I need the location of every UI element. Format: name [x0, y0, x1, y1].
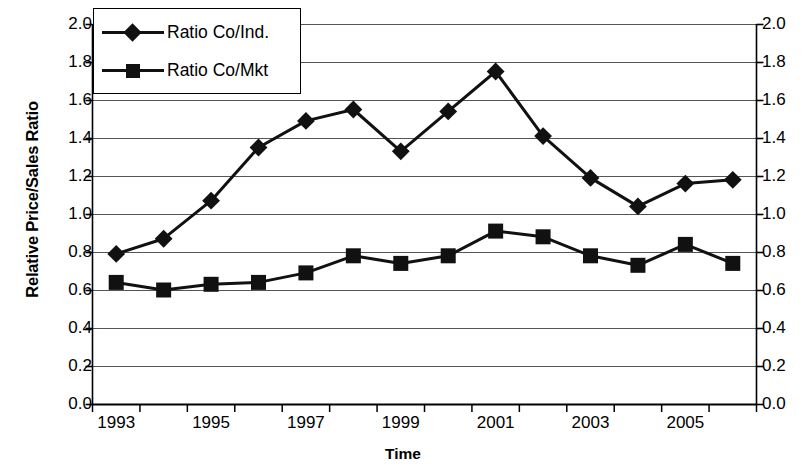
data-point-marker — [346, 248, 361, 263]
data-point-marker — [107, 245, 125, 263]
x-axis-tick-label: 1993 — [97, 414, 135, 431]
y-axis-tick-label: 2.0 — [762, 15, 786, 32]
data-point-marker — [109, 275, 124, 290]
y-axis-tick-label: 2.0 — [68, 15, 92, 32]
data-point-marker — [583, 248, 598, 263]
data-series-layer — [107, 63, 741, 298]
data-point-marker — [676, 175, 694, 193]
legend-label: Ratio Co/Ind. — [164, 23, 269, 41]
price-sales-ratio-line-chart: Relative Price/Sales Ratio Time 0.00.20.… — [0, 0, 806, 466]
diamond-marker-icon — [102, 23, 164, 41]
square-marker-icon — [102, 61, 164, 79]
y-axis-tick-label: 0.4 — [762, 319, 786, 336]
data-point-marker — [678, 237, 693, 252]
data-point-marker — [441, 248, 456, 263]
data-point-marker — [156, 283, 171, 298]
y-axis-tick-label: 0.8 — [68, 243, 92, 260]
y-axis-tick-label: 1.6 — [762, 91, 786, 108]
legend-item-ratio-co-ind: Ratio Co/Ind. — [102, 14, 300, 50]
data-point-marker — [297, 112, 315, 130]
x-axis-tick-label: 2001 — [477, 414, 515, 431]
y-axis-tick-label: 1.6 — [68, 91, 92, 108]
legend-item-ratio-co-mkt: Ratio Co/Mkt — [102, 52, 300, 88]
data-point-marker — [251, 275, 266, 290]
data-point-marker — [725, 256, 740, 271]
data-point-marker — [630, 258, 645, 273]
y-axis-tick-label: 0.0 — [762, 395, 786, 412]
y-axis-tick-label: 1.8 — [68, 53, 92, 70]
y-axis-tick-label: 1.0 — [762, 205, 786, 222]
y-axis-tick-label: 1.0 — [68, 205, 92, 222]
x-axis-tick-label: 1995 — [192, 414, 230, 431]
data-point-marker — [298, 265, 313, 280]
x-axis-tick-label: 2003 — [572, 414, 610, 431]
x-axis-tick-label: 2005 — [666, 414, 704, 431]
legend-label: Ratio Co/Mkt — [164, 61, 268, 79]
y-axis-tick-label: 0.6 — [762, 281, 786, 298]
data-point-marker — [204, 277, 219, 292]
y-axis-tick-label: 1.4 — [762, 129, 786, 146]
chart-legend: Ratio Co/Ind. Ratio Co/Mkt — [93, 8, 301, 94]
y-axis-tick-label: 1.4 — [68, 129, 92, 146]
x-axis-tick-label: 1997 — [287, 414, 325, 431]
y-axis-tick-label: 1.2 — [762, 167, 786, 184]
y-axis-tick-label: 0.6 — [68, 281, 92, 298]
data-point-marker — [629, 198, 647, 216]
y-axis-tick-label: 0.4 — [68, 319, 92, 336]
data-point-marker — [536, 229, 551, 244]
y-axis-tick-label: 0.2 — [68, 357, 92, 374]
data-point-marker — [393, 256, 408, 271]
y-axis-tick-label: 0.2 — [762, 357, 786, 374]
series-line — [116, 72, 733, 254]
data-point-marker — [488, 224, 503, 239]
series-square — [109, 224, 741, 298]
y-axis-tick-label: 0.0 — [68, 395, 92, 412]
data-point-marker — [724, 171, 742, 189]
y-axis-tick-label: 1.8 — [762, 53, 786, 70]
x-axis-tick-label: 1999 — [382, 414, 420, 431]
y-axis-tick-label: 0.8 — [762, 243, 786, 260]
y-axis-tick-label: 1.2 — [68, 167, 92, 184]
